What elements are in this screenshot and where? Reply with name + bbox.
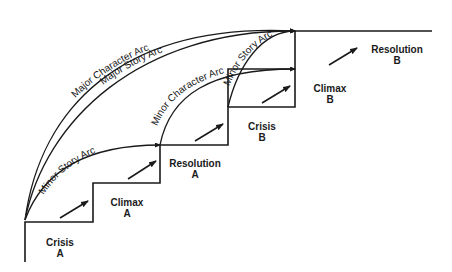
step-arrow-icon bbox=[60, 201, 88, 218]
minor-character-arc-label: Minor Character Arc bbox=[149, 65, 225, 127]
step-arrow-icon bbox=[128, 161, 156, 179]
minor-story-arc-1-label: Minor Story Arc bbox=[36, 144, 96, 196]
step-label-resolution-a: Resolution A bbox=[169, 158, 221, 180]
svg-text:A: A bbox=[191, 169, 198, 180]
svg-text:Crisis: Crisis bbox=[248, 121, 276, 132]
step-arrow-icon bbox=[262, 86, 290, 103]
step-label-crisis-b: Crisis B bbox=[248, 121, 276, 143]
svg-text:Resolution: Resolution bbox=[169, 158, 221, 169]
svg-text:B: B bbox=[326, 94, 333, 105]
svg-text:Resolution: Resolution bbox=[371, 44, 423, 55]
svg-text:A: A bbox=[123, 208, 130, 219]
step-label-resolution-b: Resolution B bbox=[371, 44, 423, 66]
svg-text:A: A bbox=[56, 248, 63, 259]
svg-text:B: B bbox=[393, 55, 400, 66]
staircase-path bbox=[25, 31, 432, 262]
svg-text:Crisis: Crisis bbox=[46, 237, 74, 248]
step-label-crisis-a: Crisis A bbox=[46, 237, 74, 259]
step-arrow-icon bbox=[329, 48, 357, 65]
step-arrow-icon bbox=[195, 124, 223, 141]
story-arc-diagram: Major Character Arc Major Story Arc Mino… bbox=[0, 0, 452, 272]
svg-text:Climax: Climax bbox=[111, 197, 144, 208]
svg-text:B: B bbox=[258, 132, 265, 143]
step-label-climax-a: Climax A bbox=[111, 197, 144, 219]
step-label-climax-b: Climax B bbox=[314, 83, 347, 105]
svg-text:Climax: Climax bbox=[314, 83, 347, 94]
